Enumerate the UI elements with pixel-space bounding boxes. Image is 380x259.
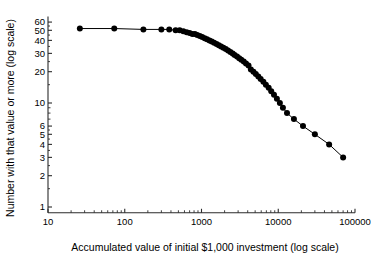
x-axis-label: Accumulated value of initial $1,000 inve…: [71, 241, 338, 253]
y-tick-label-6: 6: [40, 120, 45, 131]
data-point: [111, 26, 117, 32]
data-point: [166, 26, 172, 32]
series-line-0: [80, 29, 343, 158]
data-point: [158, 26, 164, 32]
axes: [48, 16, 355, 212]
data-point: [340, 154, 346, 160]
axis-ticks: [48, 22, 355, 213]
data-series: [77, 26, 346, 161]
y-tick-label-2: 2: [40, 170, 45, 181]
y-tick-label-60: 60: [34, 16, 45, 27]
data-point: [284, 110, 290, 116]
data-point: [140, 26, 146, 32]
data-point: [300, 123, 306, 129]
data-point: [280, 105, 286, 111]
y-tick-label-4: 4: [40, 139, 45, 150]
y-tick-label-20: 20: [34, 66, 45, 77]
y-tick-label-1: 1: [40, 201, 45, 212]
y-tick-label-40: 40: [34, 35, 45, 46]
y-axis-label: Number with that value or more (log scal…: [4, 19, 16, 217]
y-tick-label-3: 3: [40, 152, 45, 163]
x-tick-label-1000: 1000: [191, 216, 212, 227]
axis-tick-labels: 12345610203040506010100100010000100000: [34, 16, 370, 226]
data-point: [326, 141, 332, 147]
survival-curve-chart: 12345610203040506010100100010000100000 A…: [0, 0, 380, 259]
x-tick-label-10: 10: [43, 216, 54, 227]
data-point: [291, 116, 297, 122]
data-point: [312, 131, 318, 137]
x-tick-label-100000: 100000: [339, 216, 371, 227]
y-tick-label-10: 10: [34, 97, 45, 108]
data-point: [77, 26, 83, 32]
x-tick-label-10000: 10000: [265, 216, 291, 227]
y-tick-label-30: 30: [34, 48, 45, 59]
x-tick-label-100: 100: [117, 216, 133, 227]
chart-figure: 12345610203040506010100100010000100000 A…: [0, 0, 380, 259]
